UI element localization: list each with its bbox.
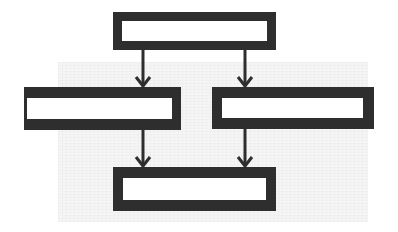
arrow-down-icon (136, 50, 150, 86)
arrow-down-icon (136, 130, 150, 166)
arrow-down-icon (238, 50, 252, 86)
arrow-down-icon (238, 129, 252, 166)
flowchart-canvas (0, 0, 398, 232)
arrows-layer (0, 0, 398, 232)
